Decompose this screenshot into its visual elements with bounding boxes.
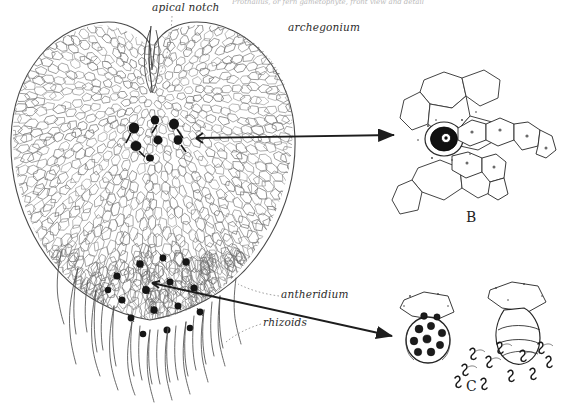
rhizoids-leader <box>226 324 261 342</box>
thallus-main <box>0 4 318 402</box>
figure-canvas <box>0 0 574 411</box>
label-archegonium: archegonium <box>288 21 360 33</box>
antheridium-leader <box>238 284 279 296</box>
panel-b-letter: B <box>466 209 476 225</box>
label-rhizoids: rhizoids <box>263 316 307 328</box>
archegonium-venter <box>425 122 463 156</box>
panel-c-antheridium-intact <box>400 292 454 363</box>
panel-c-letter: C <box>466 378 477 394</box>
panel-b-archegonium <box>392 70 556 214</box>
label-antheridium: antheridium <box>281 288 349 300</box>
label-apical-notch: apical notch <box>152 1 220 13</box>
panel-c-antheridium-dehiscing <box>455 282 553 389</box>
archegonium-neck <box>458 118 556 158</box>
